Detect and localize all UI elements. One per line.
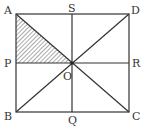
- label-a: A: [3, 4, 13, 17]
- label-s: S: [68, 2, 76, 15]
- label-b: B: [4, 110, 12, 123]
- label-c: C: [132, 110, 140, 123]
- label-r: R: [132, 57, 141, 70]
- label-d: D: [131, 4, 140, 17]
- point-o: [70, 61, 73, 64]
- label-q: Q: [68, 114, 77, 127]
- label-p: P: [4, 57, 12, 70]
- square-diagram: A S D P O R B Q C: [0, 0, 150, 132]
- label-o: O: [63, 70, 72, 83]
